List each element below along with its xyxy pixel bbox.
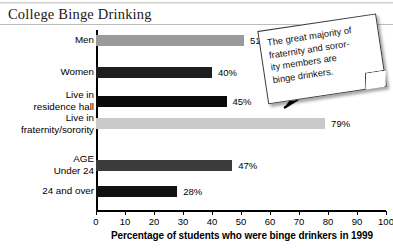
chart-page: College Binge Drinking 01020304050607080… bbox=[0, 0, 393, 248]
bar-value-label: 47% bbox=[238, 160, 257, 171]
callout-note-text: The great majority of fraternity and sor… bbox=[266, 21, 376, 86]
x-axis-tick bbox=[386, 211, 387, 215]
bar-value-label: 79% bbox=[331, 118, 350, 129]
bar-value-label: 40% bbox=[218, 67, 237, 78]
page-curl-icon bbox=[365, 70, 386, 90]
x-axis-tick bbox=[328, 211, 329, 215]
bar bbox=[96, 160, 232, 171]
bar-value-label: 45% bbox=[233, 96, 252, 107]
x-axis-tick-label: 60 bbox=[265, 216, 276, 227]
x-axis-tick-label: 20 bbox=[149, 216, 160, 227]
x-axis-tick-label: 70 bbox=[294, 216, 305, 227]
x-axis-caption: Percentage of students who were binge dr… bbox=[96, 230, 388, 241]
x-axis-tick bbox=[154, 211, 155, 215]
x-axis-tick bbox=[96, 211, 97, 215]
x-axis-tick bbox=[212, 211, 213, 215]
category-label: Women bbox=[2, 66, 94, 78]
x-axis-tick bbox=[357, 211, 358, 215]
bar-value-label: 28% bbox=[183, 186, 202, 197]
callout-annotation: The great majority of fraternity and sor… bbox=[256, 12, 392, 112]
x-axis-tick-label: 0 bbox=[93, 216, 98, 227]
bar bbox=[96, 67, 212, 78]
x-axis-tick bbox=[270, 211, 271, 215]
x-axis-tick-label: 50 bbox=[236, 216, 247, 227]
x-axis-tick-label: 10 bbox=[120, 216, 131, 227]
x-axis-tick bbox=[183, 211, 184, 215]
category-group-header: AGE bbox=[2, 153, 94, 165]
x-axis-tick-label: 90 bbox=[352, 216, 363, 227]
x-axis-tick bbox=[299, 211, 300, 215]
category-label: Men bbox=[2, 34, 94, 46]
category-label: 24 and over bbox=[2, 185, 94, 197]
x-axis-tick bbox=[125, 211, 126, 215]
category-label: Live in fraternity/sorority bbox=[2, 112, 94, 135]
x-axis-tick-label: 30 bbox=[178, 216, 189, 227]
bar bbox=[96, 96, 227, 107]
x-axis-tick-label: 80 bbox=[323, 216, 334, 227]
category-label: Under 24 bbox=[2, 165, 94, 177]
x-axis-tick bbox=[241, 211, 242, 215]
x-axis-tick-label: 40 bbox=[207, 216, 218, 227]
bar bbox=[96, 186, 177, 197]
bar bbox=[96, 118, 325, 129]
category-label: Live in residence hall bbox=[2, 89, 94, 112]
x-axis-tick-label: 100 bbox=[378, 216, 393, 227]
bar bbox=[96, 35, 244, 46]
